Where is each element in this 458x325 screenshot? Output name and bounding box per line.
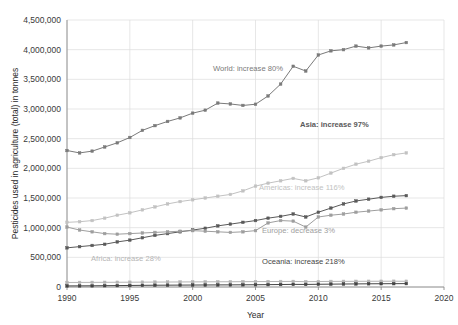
series-marker-americas <box>405 152 408 155</box>
series-marker-africa <box>367 280 370 283</box>
annotation-europe: Europe: decrease 3% <box>262 226 335 235</box>
series-marker-americas <box>141 209 144 212</box>
series-marker-world <box>292 65 295 68</box>
x-tick-label: 2020 <box>435 293 454 303</box>
series-marker-world <box>103 146 106 149</box>
series-marker-americas <box>330 172 333 175</box>
series-marker-oceania <box>317 283 320 286</box>
series-marker-oceania <box>103 284 106 287</box>
series-marker-oceania <box>66 285 69 288</box>
x-tick-label: 2010 <box>309 293 328 303</box>
series-marker-asia <box>380 196 383 199</box>
series-marker-world <box>242 104 245 107</box>
series-marker-world <box>254 103 257 106</box>
series-marker-world <box>141 129 144 132</box>
series-marker-world <box>279 83 282 86</box>
series-marker-europe <box>229 231 232 234</box>
series-marker-europe <box>292 220 295 223</box>
series-marker-world <box>154 124 157 127</box>
series-marker-asia <box>342 203 345 206</box>
series-marker-oceania <box>292 283 295 286</box>
series-marker-americas <box>242 190 245 193</box>
series-marker-oceania <box>267 283 270 286</box>
series-marker-oceania <box>242 284 245 287</box>
series-marker-oceania <box>191 284 194 287</box>
series-marker-world <box>179 117 182 120</box>
series-marker-americas <box>66 221 69 224</box>
series-marker-oceania <box>154 284 157 287</box>
y-tick-label: 500,000 <box>30 252 61 262</box>
series-marker-world <box>317 54 320 57</box>
series-marker-world <box>380 45 383 48</box>
series-marker-americas <box>229 193 232 196</box>
series-line-world <box>67 43 406 153</box>
series-marker-asia <box>103 243 106 246</box>
series-marker-world <box>217 102 220 105</box>
series-marker-europe <box>141 232 144 235</box>
series-marker-asia <box>392 195 395 198</box>
series-marker-europe <box>405 207 408 210</box>
series-line-asia <box>67 196 406 248</box>
series-marker-americas <box>342 167 345 170</box>
series-marker-americas <box>279 179 282 182</box>
series-marker-americas <box>154 206 157 209</box>
series-marker-oceania <box>392 282 395 285</box>
series-marker-africa <box>380 280 383 283</box>
series-marker-asia <box>154 234 157 237</box>
series-marker-africa <box>242 280 245 283</box>
series-marker-africa <box>129 281 132 284</box>
x-tick-label: 2005 <box>246 293 265 303</box>
series-marker-world <box>367 47 370 50</box>
series-marker-europe <box>191 229 194 232</box>
series-marker-americas <box>380 156 383 159</box>
series-marker-asia <box>66 247 69 250</box>
series-marker-world <box>204 109 207 112</box>
series-marker-world <box>392 44 395 47</box>
series-marker-asia <box>405 194 408 197</box>
series-marker-europe <box>254 229 257 232</box>
series-marker-europe <box>91 231 94 234</box>
series-marker-oceania <box>367 282 370 285</box>
y-tick-label: 1,500,000 <box>23 193 61 203</box>
y-tick-label: 2,500,000 <box>23 134 61 144</box>
series-marker-asia <box>279 215 282 218</box>
series-marker-americas <box>103 217 106 220</box>
series-marker-europe <box>330 214 333 217</box>
series-marker-americas <box>355 163 358 166</box>
series-marker-asia <box>355 200 358 203</box>
series-marker-africa <box>191 281 194 284</box>
series-marker-americas <box>116 214 119 217</box>
y-tick-label: 4,000,000 <box>23 45 61 55</box>
series-marker-europe <box>279 219 282 222</box>
series-marker-europe <box>367 210 370 213</box>
series-marker-africa <box>304 280 307 283</box>
series-marker-oceania <box>179 284 182 287</box>
series-marker-europe <box>204 230 207 233</box>
series-marker-oceania <box>78 285 81 288</box>
series-marker-europe <box>242 231 245 234</box>
series-marker-asia <box>330 207 333 210</box>
series-marker-world <box>66 149 69 152</box>
series-marker-oceania <box>91 285 94 288</box>
series-marker-asia <box>317 211 320 214</box>
y-tick-label: 0 <box>56 282 61 292</box>
series-marker-europe <box>217 231 220 234</box>
series-marker-asia <box>217 225 220 228</box>
series-marker-europe <box>78 229 81 232</box>
series-marker-asia <box>304 216 307 219</box>
series-marker-africa <box>116 281 119 284</box>
series-marker-africa <box>229 280 232 283</box>
y-tick-label: 1,000,000 <box>23 223 61 233</box>
series-marker-europe <box>380 209 383 212</box>
x-tick-label: 2000 <box>183 293 202 303</box>
series-marker-americas <box>304 179 307 182</box>
series-marker-asia <box>116 241 119 244</box>
series-marker-oceania <box>166 284 169 287</box>
series-marker-world <box>304 70 307 73</box>
series-marker-world <box>355 45 358 48</box>
series-marker-europe <box>154 231 157 234</box>
series-marker-africa <box>166 281 169 284</box>
series-marker-asia <box>91 244 94 247</box>
series-marker-americas <box>91 219 94 222</box>
series-marker-oceania <box>141 284 144 287</box>
